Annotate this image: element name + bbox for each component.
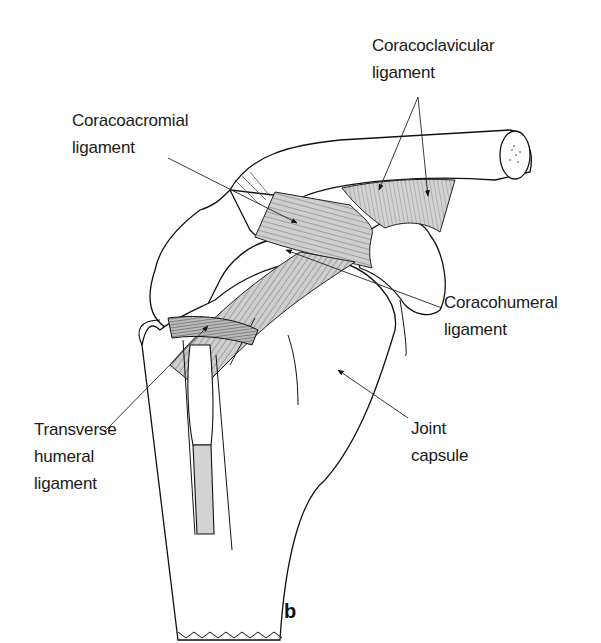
label-line: Coracohumeral [444, 289, 558, 316]
capsule-edge [400, 300, 406, 356]
label-line: Joint [411, 415, 468, 442]
panel-label: b [284, 600, 296, 623]
label-line: humeral [34, 443, 116, 470]
label-coracohumeral-ligament: Coracohumeral ligament [444, 289, 558, 343]
label-line: capsule [411, 442, 468, 469]
label-line: Coracoclavicular [372, 32, 494, 59]
label-coracoclavicular-ligament: Coracoclavicular ligament [372, 32, 494, 86]
label-line: ligament [34, 470, 116, 497]
label-line: ligament [444, 316, 558, 343]
label-line: Coracoacromial [72, 107, 188, 134]
label-line: Transverse [34, 416, 116, 443]
label-coracoacromial-ligament: Coracoacromial ligament [72, 107, 188, 161]
label-joint-capsule: Joint capsule [411, 415, 468, 469]
label-line: ligament [372, 59, 494, 86]
label-transverse-humeral-ligament: Transverse humeral ligament [34, 416, 116, 497]
label-line: ligament [72, 134, 188, 161]
